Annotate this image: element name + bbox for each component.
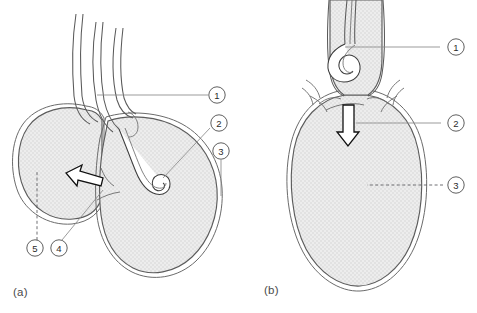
panel-a-callout-2-label: 2 [216,118,221,129]
panel-a-left-lobe [18,108,102,219]
panel-a-callout-5-label: 5 [32,243,37,254]
panel-b-callout-1[interactable]: 1 [448,39,464,55]
figure-root: 1 2 3 4 5 (a) [0,0,477,313]
panel-a-callout-1-label: 1 [214,90,219,101]
panel-b-callout-2[interactable]: 2 [448,115,464,131]
panel-a-duct-right-b [121,28,136,114]
panel-b-body [291,95,421,286]
panel-a-callout-3[interactable]: 3 [213,143,229,159]
panel-a-caption: (a) [13,286,28,298]
panel-a-callout-4[interactable]: 4 [51,240,67,256]
panel-b-fold-4 [393,88,404,105]
diagram-canvas: 1 2 3 4 5 (a) [0,0,477,313]
panel-b-callout-1-label: 1 [453,42,458,53]
panel-a-callout-2[interactable]: 2 [211,115,227,131]
panel-a-callout-5[interactable]: 5 [27,240,43,256]
panel-b: 1 2 3 (b) [264,0,464,296]
panel-b-fold-5 [387,80,400,98]
panel-b-fold-2 [306,80,320,98]
panel-b-callout-2-label: 2 [453,118,458,129]
panel-a-callout-4-label: 4 [56,243,61,254]
panel-a-duct-right [113,28,133,118]
panel-b-callout-3[interactable]: 3 [448,177,464,193]
panel-a-callout-3-label: 3 [218,146,223,157]
panel-a-duct-middle-b [101,22,119,129]
panel-b-caption: (b) [264,284,279,296]
panel-a-callout-1[interactable]: 1 [209,87,225,103]
panel-a: 1 2 3 4 5 (a) [13,14,230,298]
panel-b-callout-3-label: 3 [453,180,458,191]
